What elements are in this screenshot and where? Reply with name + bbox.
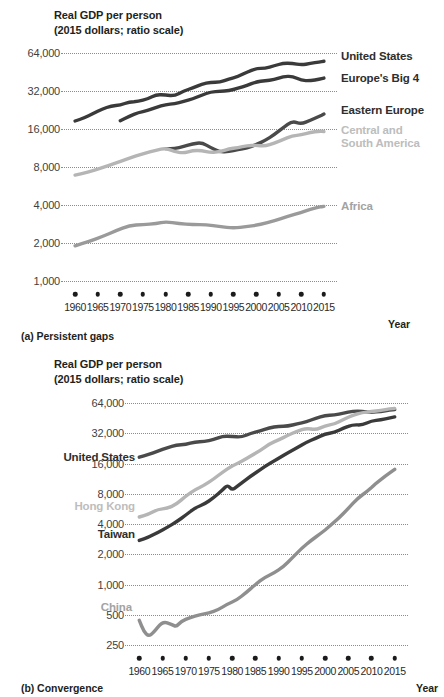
panel-a-plot-area: 1,0002,0004,0008,00016,00032,00064,00019… (0, 0, 444, 349)
series-label-africa: Africa (341, 200, 373, 213)
series-line-china (139, 469, 394, 635)
series-line-africa (75, 206, 324, 245)
series-line-united-states (75, 61, 324, 121)
panel-b-plot-area: 2505001,0002,0004,0008,00016,00032,00064… (0, 348, 444, 697)
panel-b-xaxis-label: Year (416, 682, 438, 694)
series-label-central-and-south-america: Central and South America (341, 124, 420, 149)
panel-a-xaxis-label: Year (388, 318, 410, 330)
series-label-united-states: United States (63, 451, 135, 464)
panel-b-caption: (b) Convergence (21, 682, 103, 694)
chart-panel-b: Real GDP per person (2015 dollars; ratio… (0, 348, 444, 697)
series-label-united-states: United States (341, 50, 413, 63)
series-label-hong-kong: Hong Kong (74, 500, 135, 513)
series-line-central-and-south-america (75, 131, 324, 175)
series-line-united-states (139, 410, 394, 458)
series-label-taiwan: Taiwan (98, 528, 135, 541)
panel-a-caption: (a) Persistent gaps (21, 330, 114, 342)
series-label-china: China (101, 601, 132, 614)
series-label-eastern-europe: Eastern Europe (341, 104, 424, 117)
series-lines (0, 348, 444, 697)
series-line-taiwan (139, 417, 394, 541)
chart-panel-a: Real GDP per person (2015 dollars; ratio… (0, 0, 444, 348)
series-label-europe-s-big-4: Europe's Big 4 (341, 72, 419, 85)
